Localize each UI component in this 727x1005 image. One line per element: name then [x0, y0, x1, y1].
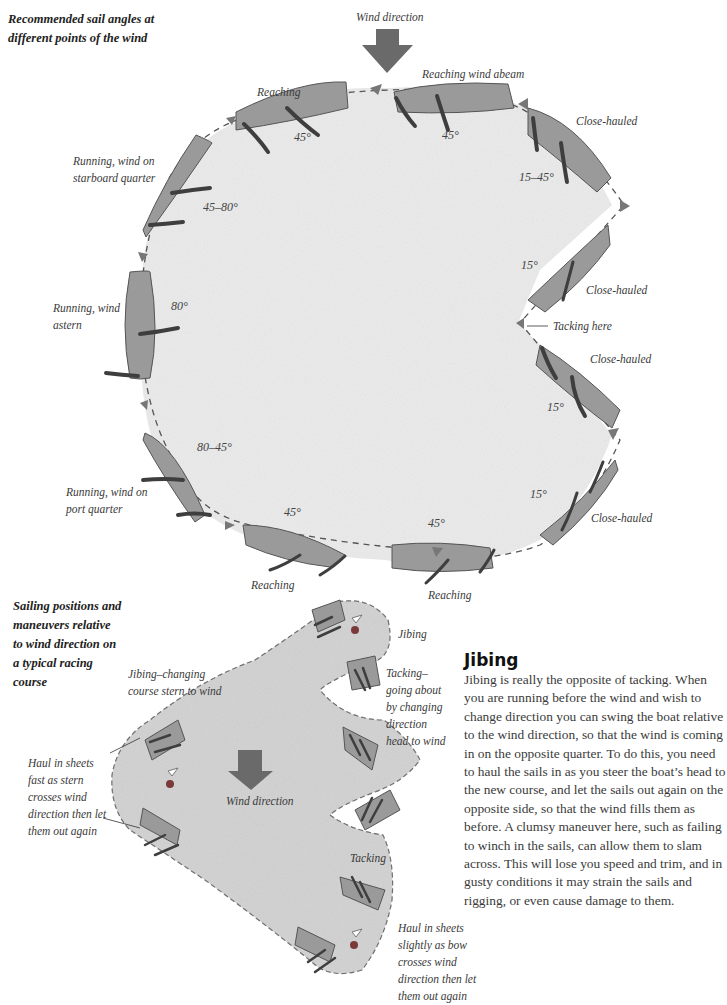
label-running-starboard-quarter: Running, wind on starboard quarter: [73, 153, 163, 187]
angle-close-hauled-3: 15°: [547, 400, 564, 415]
angle-close-hauled-1: 15–45°: [519, 170, 554, 185]
label-close-hauled-1: Close-hauled: [576, 113, 637, 130]
angle-running-starboard-quarter: 45–80°: [203, 200, 238, 215]
article-body: Jibing is really the opposite of tacking…: [464, 671, 726, 910]
label-jibing-changing: Jibing–changing course stern to wind: [128, 666, 223, 700]
wind-arrow-top: [362, 29, 413, 73]
boat-reaching-bottom-right: [392, 543, 494, 583]
label-reaching-wind-abeam: Reaching wind abeam: [422, 66, 524, 83]
label-haul-sheets-fast: Haul in sheets fast as stern crosses win…: [28, 755, 108, 840]
label-close-hauled-4: Close-hauled: [591, 510, 652, 527]
article-heading: Jibing: [464, 650, 518, 670]
label-reaching-top-left: Reaching: [257, 84, 300, 101]
wind-direction-label-bottom: Wind direction: [226, 793, 294, 810]
label-reaching-bottom-left: Reaching: [251, 577, 294, 594]
label-running-port-quarter: Running, wind on port quarter: [66, 484, 166, 518]
label-running-astern: Running, wind astern: [53, 300, 133, 334]
angle-reaching-wind-abeam: 45°: [442, 128, 459, 143]
angle-reaching-top-left: 45°: [294, 130, 311, 145]
bottom-diagram-caption: Sailing positions and maneuvers relative…: [13, 597, 123, 692]
angle-reaching-bottom-right: 45°: [428, 516, 445, 531]
label-tacking: Tacking: [350, 850, 386, 867]
label-tacking-here: Tacking here: [553, 318, 612, 335]
label-haul-sheets-slightly: Haul in sheets slightly as bow crosses w…: [398, 920, 496, 1005]
label-reaching-bottom-right: Reaching: [428, 587, 471, 604]
label-jibing: Jibing: [398, 626, 427, 643]
angle-reaching-bottom-left: 45°: [284, 505, 301, 520]
angle-close-hauled-4: 15°: [530, 487, 547, 502]
label-tacking-going-about: Tacking–going about by changing directio…: [386, 665, 448, 750]
label-close-hauled-2: Close-hauled: [586, 282, 647, 299]
top-diagram-caption: Recommended sail angles at different poi…: [8, 10, 178, 48]
angle-running-astern: 80°: [171, 299, 188, 314]
label-close-hauled-3: Close-hauled: [590, 351, 651, 368]
wind-direction-label-top: Wind direction: [356, 9, 424, 26]
angle-close-hauled-2: 15°: [521, 258, 538, 273]
angle-running-port-quarter: 80–45°: [197, 440, 232, 455]
